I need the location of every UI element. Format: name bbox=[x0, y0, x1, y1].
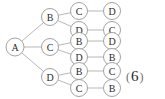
tree-edge bbox=[58, 73, 70, 76]
tree-node[interactable]: C bbox=[71, 3, 88, 20]
tree-edge bbox=[58, 20, 71, 26]
tree-edge bbox=[58, 50, 71, 54]
tree-node[interactable]: B bbox=[71, 63, 88, 80]
tree-edge bbox=[22, 53, 44, 72]
count-annotation: (6) bbox=[126, 68, 151, 85]
node-label: C bbox=[109, 66, 116, 77]
node-label: C bbox=[47, 42, 54, 53]
tree-edge bbox=[58, 43, 70, 46]
node-layer: ABCDCDBDBCDCDBCB bbox=[6, 3, 121, 97]
tree-node[interactable]: B bbox=[42, 9, 59, 26]
diagram-canvas: ABCDCDBDBCDCDBCB (6) bbox=[0, 0, 165, 99]
node-label: D bbox=[108, 36, 115, 47]
tree-node[interactable]: C bbox=[71, 80, 88, 97]
node-label: B bbox=[47, 12, 54, 23]
tree-node[interactable]: D bbox=[42, 69, 59, 86]
node-label: B bbox=[76, 36, 83, 47]
node-label: A bbox=[11, 42, 19, 53]
tree-node[interactable]: C bbox=[42, 39, 59, 56]
clipped-glyph bbox=[145, 69, 151, 81]
tree-node[interactable]: D bbox=[104, 33, 121, 50]
node-label: D bbox=[108, 6, 115, 17]
node-label: D bbox=[46, 72, 53, 83]
tree-node[interactable]: A bbox=[6, 38, 24, 56]
node-label: D bbox=[75, 52, 82, 63]
tree-edge bbox=[22, 23, 44, 42]
tree-edge bbox=[58, 13, 70, 16]
node-label: C bbox=[76, 83, 83, 94]
node-label: B bbox=[109, 83, 116, 94]
tree-node[interactable]: D bbox=[104, 3, 121, 20]
tree-edge bbox=[58, 80, 71, 85]
tree-node[interactable]: C bbox=[104, 63, 121, 80]
edge-layer bbox=[22, 11, 104, 88]
node-label: B bbox=[109, 52, 116, 63]
node-label: C bbox=[76, 6, 83, 17]
annotation-number: 6 bbox=[131, 68, 140, 84]
node-label: B bbox=[76, 66, 83, 77]
tree-node[interactable]: B bbox=[71, 33, 88, 50]
tree-node[interactable]: B bbox=[104, 80, 121, 97]
